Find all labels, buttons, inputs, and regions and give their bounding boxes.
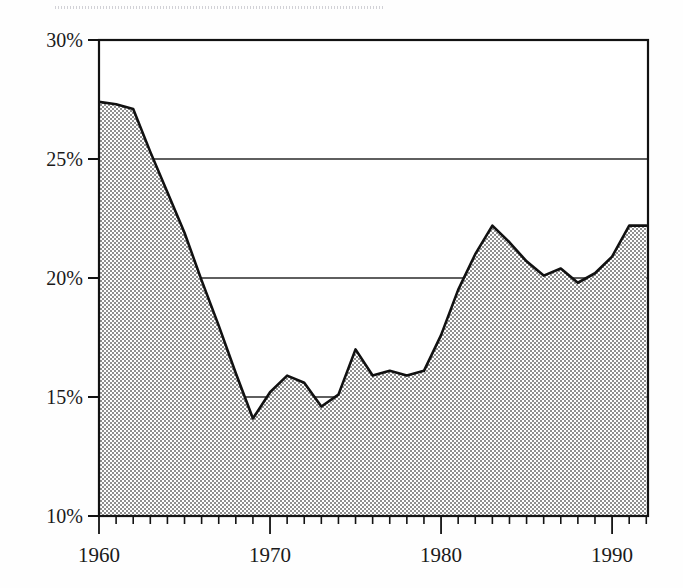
y-tick-marks <box>88 40 99 516</box>
y-tick-label-25: 25% <box>46 148 83 170</box>
x-minor-tick-marks <box>116 516 646 524</box>
x-tick-label-1970: 1970 <box>249 543 291 567</box>
x-tick-label-1980: 1980 <box>420 543 462 567</box>
chart-page: 30%25%20%15%10% 1960197019801990 <box>0 0 683 588</box>
x-axis-tick-labels: 1960197019801990 <box>78 543 633 567</box>
y-tick-label-15: 15% <box>46 386 83 408</box>
x-tick-label-1990: 1990 <box>591 543 633 567</box>
chart-svg: 30%25%20%15%10% 1960197019801990 <box>0 0 683 588</box>
y-tick-label-20: 20% <box>46 267 83 289</box>
area-chart: 30%25%20%15%10% 1960197019801990 <box>0 0 683 588</box>
y-tick-label-30: 30% <box>46 29 83 51</box>
x-tick-label-1960: 1960 <box>78 543 120 567</box>
y-axis-tick-labels: 30%25%20%15%10% <box>46 29 83 527</box>
y-tick-label-10: 10% <box>46 505 83 527</box>
